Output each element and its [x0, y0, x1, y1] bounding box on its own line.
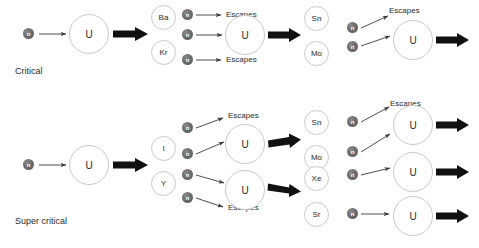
escapes-label-critical-g3: Escapes	[389, 6, 420, 15]
nucleus-label: U	[85, 160, 92, 171]
neutron-critical-g2-1: n	[182, 9, 193, 20]
neutron-supercritical-g1: n	[23, 159, 34, 170]
product-label: Ba	[159, 13, 169, 22]
product-y: Y	[151, 171, 176, 196]
product-i: I	[151, 136, 176, 161]
thick-arrow-supercritical-g2b	[268, 184, 302, 198]
neutron-supercritical-g2-1: n	[182, 122, 193, 133]
neutron-label: n	[351, 25, 355, 31]
caption-critical: Critical	[15, 66, 43, 76]
neutron-supercritical-g3-3: n	[347, 169, 358, 180]
thin-arrow-critical-g3-capture	[361, 36, 390, 46]
thick-arrow-critical-g2	[268, 28, 301, 42]
neutron-critical-g3-1: n	[347, 22, 358, 33]
product-label: Y	[161, 179, 166, 188]
neutron-critical-g2-3: n	[182, 54, 193, 65]
thin-arrow-critical-g3-escape	[361, 16, 388, 28]
fission-chain-reaction-diagram: n U Ba Kr Critical n n n Escapes Escapes…	[0, 0, 479, 248]
nucleus-supercritical-g3c: U	[393, 196, 433, 236]
nucleus-label: U	[409, 120, 416, 131]
thick-arrow-supercritical-g3c	[436, 209, 469, 223]
thick-arrow-supercritical-g3b	[436, 165, 469, 179]
thick-arrow-supercritical-g2a	[268, 134, 301, 149]
product-xe: Xe	[304, 166, 329, 191]
nucleus-label: U	[409, 167, 416, 178]
nucleus-supercritical-g2b: U	[225, 170, 265, 210]
product-kr: Kr	[151, 40, 176, 65]
thin-arrow-supercritical-g3-escape	[361, 107, 389, 122]
caption-super-critical: Super critical	[15, 216, 67, 226]
product-label: Xe	[312, 174, 322, 183]
neutron-supercritical-g2-4: n	[182, 192, 193, 203]
product-ba: Ba	[151, 5, 176, 30]
product-label: Mo	[311, 49, 322, 58]
neutron-label: n	[351, 119, 355, 125]
neutron-supercritical-g3-2: n	[347, 146, 358, 157]
nucleus-critical-g2: U	[225, 15, 265, 55]
neutron-label: n	[186, 151, 190, 157]
nucleus-label: U	[241, 185, 248, 196]
product-sr: Sr	[304, 202, 329, 227]
neutron-supercritical-g3-1: n	[347, 116, 358, 127]
product-sn-supercritical: Sn	[304, 110, 329, 135]
thick-arrow-critical-g3	[436, 33, 469, 47]
product-label: Sn	[312, 118, 322, 127]
neutron-label: n	[351, 172, 355, 178]
escapes-label-supercritical-top: Escapes	[228, 111, 259, 120]
nucleus-label: U	[241, 139, 248, 150]
neutron-label: n	[351, 149, 355, 155]
product-label: Kr	[160, 48, 168, 57]
product-label: I	[162, 144, 164, 153]
thin-arrow-supercritical-g3-capture-2	[361, 168, 390, 175]
neutron-supercritical-g2-2: n	[182, 148, 193, 159]
neutron-label: n	[186, 12, 190, 18]
neutron-critical-g3-2: n	[347, 41, 358, 52]
neutron-label: n	[351, 211, 355, 217]
nucleus-supercritical-g3a: U	[393, 105, 433, 145]
neutron-label: n	[186, 57, 190, 63]
nucleus-critical-g1: U	[69, 14, 109, 54]
product-label: Mo	[311, 153, 322, 162]
nucleus-critical-g3: U	[393, 20, 433, 60]
neutron-label: n	[351, 44, 355, 50]
neutron-supercritical-g2-3: n	[182, 169, 193, 180]
neutron-supercritical-g3-4: n	[347, 208, 358, 219]
thin-arrow-supercritical-g2a-capture	[196, 142, 224, 154]
product-label: Sr	[313, 210, 321, 219]
neutron-label: n	[186, 195, 190, 201]
thin-arrow-supercritical-g2b-escape	[196, 198, 223, 207]
thick-arrow-critical-g1	[113, 27, 148, 41]
thin-arrow-supercritical-g2b-capture	[196, 175, 224, 183]
nucleus-supercritical-g3b: U	[393, 152, 433, 192]
product-sn-critical: Sn	[304, 6, 329, 31]
neutron-label: n	[27, 162, 31, 168]
thin-arrow-supercritical-g2a-escape	[196, 118, 223, 128]
escapes-label-critical-bottom: Escapes	[226, 55, 257, 64]
nucleus-supercritical-g1: U	[69, 145, 109, 185]
thin-arrow-supercritical-g3-capture-1	[361, 134, 390, 152]
product-mo-critical: Mo	[304, 41, 329, 66]
nucleus-label: U	[409, 35, 416, 46]
neutron-critical-g1: n	[23, 28, 34, 39]
neutron-label: n	[186, 32, 190, 38]
nucleus-label: U	[85, 29, 92, 40]
neutron-critical-g2-2: n	[182, 29, 193, 40]
neutron-label: n	[186, 172, 190, 178]
neutron-label: n	[27, 31, 31, 37]
thick-arrow-supercritical-g3a	[436, 118, 469, 132]
product-label: Sn	[312, 14, 322, 23]
thick-arrow-supercritical-g1	[113, 158, 148, 172]
neutron-label: n	[186, 125, 190, 131]
nucleus-label: U	[409, 211, 416, 222]
nucleus-supercritical-g2a: U	[225, 124, 265, 164]
nucleus-label: U	[241, 30, 248, 41]
